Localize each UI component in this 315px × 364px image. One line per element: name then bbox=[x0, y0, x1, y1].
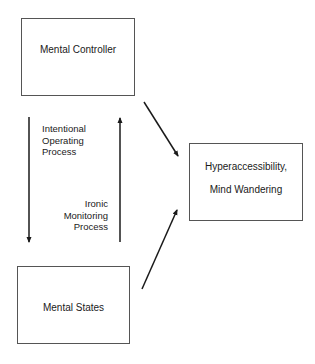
operating-line: Operating bbox=[42, 135, 86, 147]
mental-states-label: Mental States bbox=[18, 302, 129, 314]
process-line: Process bbox=[64, 221, 108, 233]
mental-controller-label: Mental Controller bbox=[22, 44, 134, 56]
ironic-monitoring-label: Ironic Monitoring Process bbox=[64, 198, 108, 233]
ironic-line: Ironic bbox=[64, 198, 108, 210]
states-to-outcome-arrow bbox=[142, 210, 177, 289]
intentional-operating-label: Intentional Operating Process bbox=[42, 123, 86, 158]
outcome-label-line-1: Hyperaccessibility, bbox=[190, 161, 302, 173]
outcome-label-line-2: Mind Wandering bbox=[190, 184, 302, 196]
outcome-box: Hyperaccessibility, Mind Wandering bbox=[189, 143, 303, 221]
process-line: Process bbox=[42, 146, 86, 158]
intentional-line: Intentional bbox=[42, 123, 86, 135]
controller-to-outcome-arrow bbox=[144, 102, 178, 156]
mental-states-box: Mental States bbox=[17, 266, 130, 344]
monitoring-line: Monitoring bbox=[64, 210, 108, 222]
mental-controller-box: Mental Controller bbox=[21, 18, 135, 96]
